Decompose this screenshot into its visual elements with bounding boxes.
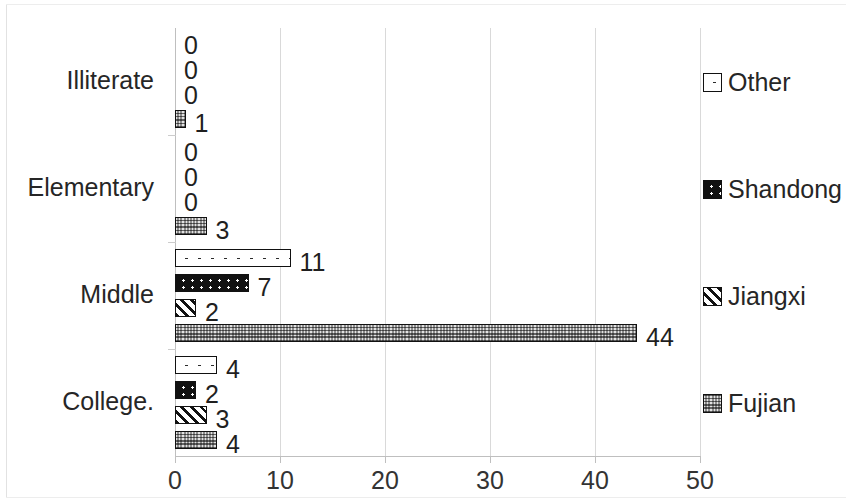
data-label-other-elementary: 0 bbox=[184, 140, 198, 165]
legend-item-jiangxi[interactable]: Jiangxi bbox=[703, 282, 806, 311]
data-label-fujian-elementary: 3 bbox=[216, 218, 230, 243]
data-label-other-college: 4 bbox=[226, 357, 240, 382]
chart-frame-top bbox=[6, 4, 846, 5]
x-tick-mark-20 bbox=[385, 456, 386, 463]
data-label-shandong-elementary: 0 bbox=[184, 165, 198, 190]
x-axis-label-20: 20 bbox=[345, 466, 425, 495]
bar-shandong-middle bbox=[175, 274, 249, 292]
data-label-fujian-college: 4 bbox=[226, 432, 240, 457]
chart-legend: OtherShandongJiangxiFujian bbox=[703, 28, 852, 456]
legend-swatch-diagonal-stripes-icon bbox=[703, 287, 722, 306]
legend-label-jiangxi: Jiangxi bbox=[728, 282, 806, 311]
category-label-wrap: Middle bbox=[0, 280, 168, 309]
legend-label-fujian: Fujian bbox=[728, 389, 796, 418]
data-label-jiangxi-illiterate: 0 bbox=[184, 83, 198, 108]
x-tick-mark-40 bbox=[595, 456, 596, 463]
category-label-wrap: Elementary bbox=[0, 173, 168, 202]
x-axis-label-0: 0 bbox=[135, 466, 215, 495]
category-label-wrap: College. bbox=[0, 387, 168, 416]
legend-swatch-gray-checker-icon bbox=[703, 394, 722, 413]
bar-fujian-middle bbox=[175, 324, 637, 342]
legend-item-other[interactable]: Other bbox=[703, 68, 791, 97]
bar-jiangxi-middle bbox=[175, 299, 196, 317]
x-axis-label-40: 40 bbox=[555, 466, 635, 495]
x-tick-mark-30 bbox=[490, 456, 491, 463]
data-label-other-middle: 11 bbox=[300, 250, 326, 275]
data-label-shandong-illiterate: 0 bbox=[184, 58, 198, 83]
y-axis-label-middle: Middle bbox=[0, 280, 168, 309]
x-axis-label-30: 30 bbox=[450, 466, 530, 495]
bar-chart: 01020304050 IlliterateElementaryMiddleCo… bbox=[0, 0, 852, 501]
x-axis-label-10: 10 bbox=[240, 466, 320, 495]
legend-label-shandong: Shandong bbox=[728, 175, 842, 204]
x-axis-line bbox=[175, 456, 701, 457]
chart-frame-bottom bbox=[6, 497, 846, 498]
data-label-jiangxi-college: 3 bbox=[216, 407, 230, 432]
bar-other-middle bbox=[175, 249, 291, 267]
gridline-50 bbox=[700, 28, 701, 456]
x-axis-label-50: 50 bbox=[660, 466, 740, 495]
legend-swatch-white-dotted-icon bbox=[703, 73, 722, 92]
category-label-wrap: Illiterate bbox=[0, 66, 168, 95]
bar-shandong-college bbox=[175, 381, 196, 399]
x-tick-mark-10 bbox=[280, 456, 281, 463]
plot-area: 000100031172444234 bbox=[175, 28, 700, 456]
x-tick-mark-0 bbox=[175, 456, 176, 463]
data-label-shandong-middle: 7 bbox=[258, 275, 272, 300]
legend-swatch-black-white-dots-icon bbox=[703, 180, 722, 199]
y-axis-label-college: College. bbox=[0, 387, 168, 416]
data-label-jiangxi-elementary: 0 bbox=[184, 190, 198, 215]
data-label-jiangxi-middle: 2 bbox=[205, 300, 219, 325]
data-label-shandong-college: 2 bbox=[205, 382, 219, 407]
x-tick-mark-50 bbox=[700, 456, 701, 463]
y-axis-label-elementary: Elementary bbox=[0, 173, 168, 202]
bar-fujian-illiterate bbox=[175, 110, 186, 128]
legend-label-other: Other bbox=[728, 68, 791, 97]
bar-fujian-college bbox=[175, 431, 217, 449]
data-label-fujian-middle: 44 bbox=[646, 325, 674, 350]
data-label-fujian-illiterate: 1 bbox=[195, 111, 209, 136]
bar-other-college bbox=[175, 356, 217, 374]
legend-item-shandong[interactable]: Shandong bbox=[703, 175, 842, 204]
y-axis-label-illiterate: Illiterate bbox=[0, 66, 168, 95]
legend-item-fujian[interactable]: Fujian bbox=[703, 389, 796, 418]
bar-fujian-elementary bbox=[175, 217, 207, 235]
bar-jiangxi-college bbox=[175, 406, 207, 424]
data-label-other-illiterate: 0 bbox=[184, 33, 198, 58]
